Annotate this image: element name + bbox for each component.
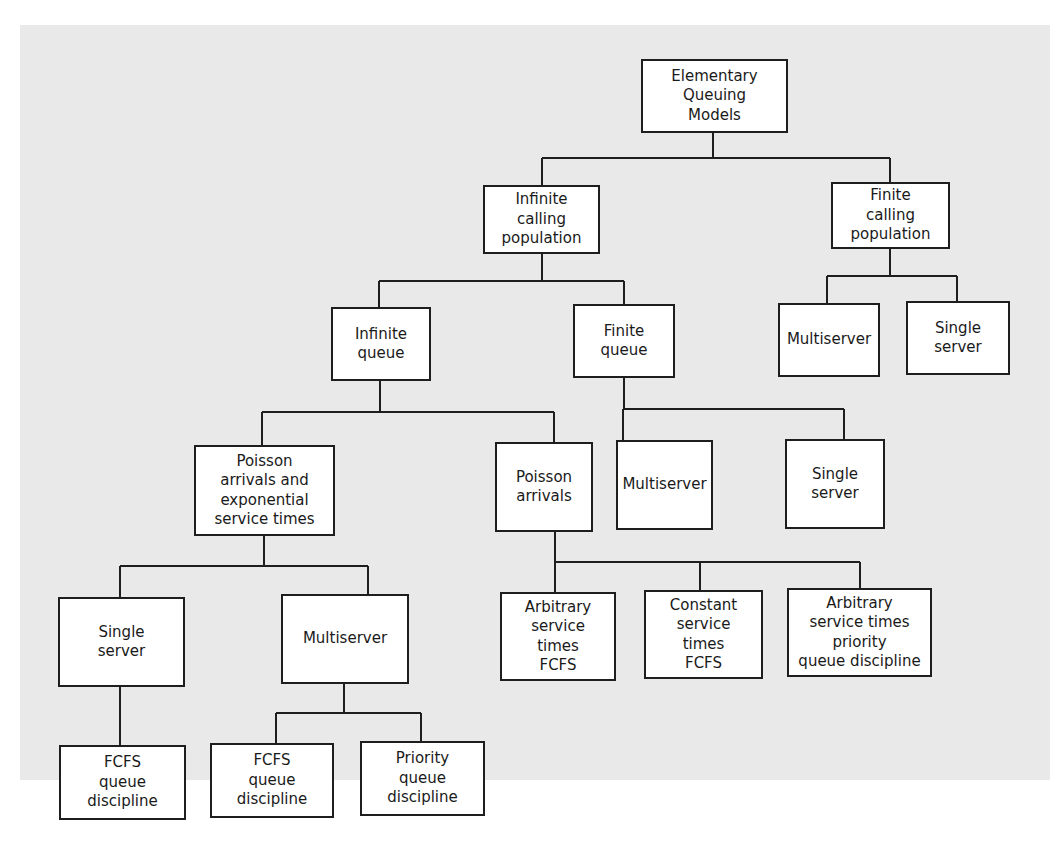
node-fcp-multiserver: Multiserver [778,303,880,377]
node-fq-multiserver: Multiserver [616,440,713,530]
node-fq-single-server: Single server [785,439,885,529]
node-fcp-single-server: Single server [906,301,1010,375]
node-arbitrary-fcfs: Arbitrary service times FCFS [500,592,616,681]
connector-finite-queue [623,378,844,440]
connector-root [542,133,890,185]
connector-poisson-exponential [120,536,368,597]
node-infinite-calling-population: Infinite calling population [483,185,600,254]
connector-lines [0,0,1064,853]
node-poisson-arrivals: Poisson arrivals [495,442,593,532]
connector-multiserver [276,684,421,743]
node-poisson-exponential: Poisson arrivals and exponential service… [194,445,335,536]
connector-finite-calling-population [827,249,957,303]
node-multiserver-priority: Priority queue discipline [360,741,485,816]
node-multiserver-fcfs: FCFS queue discipline [210,743,334,818]
node-single-server-fcfs: FCFS queue discipline [59,745,186,820]
node-pe-single-server: Single server [58,597,185,687]
node-infinite-queue: Infinite queue [331,307,431,381]
node-finite-queue: Finite queue [573,304,675,378]
node-constant-fcfs: Constant service times FCFS [644,590,763,679]
node-arbitrary-priority: Arbitrary service times priority queue d… [787,588,932,677]
connector-poisson-arrivals [555,532,860,592]
connector-infinite-calling-population [379,254,624,307]
node-elementary-queuing-models: Elementary Queuing Models [641,59,788,133]
node-finite-calling-population: Finite calling population [831,182,950,249]
connector-infinite-queue [262,381,554,445]
node-pe-multiserver: Multiserver [281,594,409,684]
